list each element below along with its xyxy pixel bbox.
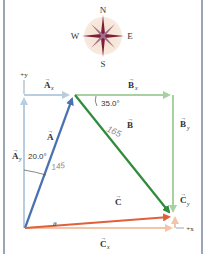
vector-C-arrow	[25, 217, 169, 228]
angle-theta-label: θ	[53, 220, 57, 228]
vector-diagram-frame: N S W E +y +x A x →	[0, 0, 206, 254]
compass-rose-icon	[82, 15, 124, 57]
label-B: B →	[127, 116, 134, 130]
label-Ax: A x →	[44, 76, 54, 91]
svg-text:→: →	[181, 115, 187, 121]
x-axis-label: +x	[186, 225, 194, 233]
angle-arc-A	[24, 170, 46, 175]
label-Cx: C x →	[100, 235, 110, 250]
compass-west-label: W	[71, 31, 80, 41]
svg-text:y: y	[18, 156, 22, 162]
svg-text:→: →	[48, 128, 54, 134]
svg-text:x: x	[106, 244, 110, 250]
angle-arc-B	[95, 96, 97, 106]
svg-text:→: →	[45, 76, 51, 82]
label-Cy: C y →	[180, 191, 190, 207]
svg-text:y: y	[186, 201, 190, 207]
label-Ay: A y →	[12, 147, 22, 162]
compass-south-label: S	[100, 59, 105, 69]
label-Bx: B x →	[128, 76, 138, 91]
svg-text:→: →	[116, 193, 122, 199]
svg-text:→: →	[101, 235, 107, 241]
label-C: C →	[115, 193, 122, 207]
svg-text:→: →	[13, 147, 19, 153]
svg-text:→: →	[128, 116, 134, 122]
svg-text:→: →	[181, 191, 187, 197]
compass-north-label: N	[100, 5, 107, 15]
y-axis-label: +y	[20, 71, 28, 79]
compass-east-label: E	[127, 31, 133, 41]
svg-text:x: x	[134, 85, 138, 91]
vector-diagram: N S W E +y +x A x →	[0, 0, 206, 254]
svg-text:→: →	[129, 76, 135, 82]
vector-B-arrow	[75, 95, 169, 212]
handwritten-A-magnitude: 145	[51, 161, 66, 172]
svg-text:x: x	[50, 85, 54, 91]
label-A: A →	[47, 128, 54, 142]
vector-A-arrow	[25, 99, 72, 228]
angle-B-label: 35.0°	[101, 99, 120, 108]
angle-A-label: 20.0°	[28, 152, 47, 161]
svg-text:y: y	[186, 125, 190, 131]
label-By: B y →	[180, 115, 190, 131]
